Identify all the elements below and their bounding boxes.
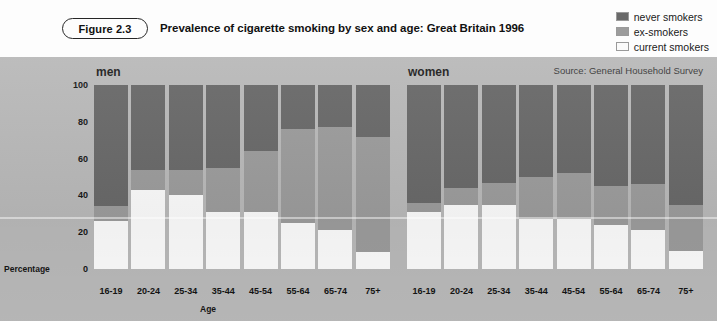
figure-number-badge: Figure 2.3 <box>62 18 148 39</box>
figure-page: Figure 2.3 Prevalence of cigarette smoki… <box>0 0 717 321</box>
y-axis: 020406080100 <box>54 57 88 321</box>
legend-item: never smokers <box>616 10 709 23</box>
bar-segment <box>444 205 478 269</box>
x-axis-tick: 35-44 <box>519 286 553 296</box>
stacked-bar <box>318 85 352 269</box>
chart-panel: men women Source: General Household Surv… <box>0 57 717 321</box>
x-axis-tick: 25-34 <box>169 286 203 296</box>
bar-segment <box>131 170 165 190</box>
stacked-bar <box>356 85 390 269</box>
stacked-bar <box>131 85 165 269</box>
bar-segment <box>244 151 278 212</box>
bar-segment <box>669 251 703 269</box>
bar-segment <box>356 252 390 269</box>
source-note: Source: General Household Survey <box>554 65 703 76</box>
bar-segment <box>318 127 352 230</box>
y-axis-tick: 0 <box>54 264 88 274</box>
bar-segment <box>519 177 553 219</box>
stacked-bar <box>669 85 703 269</box>
bar-segment <box>131 85 165 170</box>
stacked-bar <box>244 85 278 269</box>
y-axis-label: Percentage <box>4 264 50 274</box>
bar-segment <box>169 85 203 170</box>
bar-segment <box>318 85 352 127</box>
bar-segment <box>407 85 441 203</box>
bar-segment <box>356 85 390 137</box>
legend-label: ex-smokers <box>634 26 688 38</box>
stacked-bar <box>482 85 516 269</box>
stacked-bar <box>444 85 478 269</box>
stacked-bar <box>169 85 203 269</box>
legend-swatch-icon <box>616 12 629 21</box>
figure-title: Prevalence of cigarette smoking by sex a… <box>160 22 524 34</box>
bar-segment <box>169 195 203 269</box>
y-axis-tick: 20 <box>54 227 88 237</box>
bar-segment <box>94 85 128 206</box>
bar-segment <box>519 85 553 177</box>
x-axis-tick: 35-44 <box>206 286 240 296</box>
bar-segment <box>519 219 553 269</box>
group-title-women: women <box>408 65 449 79</box>
group-title-men: men <box>96 65 121 79</box>
legend-swatch-icon <box>616 27 629 36</box>
stacked-bar <box>206 85 240 269</box>
legend-swatch-icon <box>616 42 629 51</box>
bar-segment <box>482 183 516 205</box>
bar-segment <box>444 188 478 205</box>
stacked-bar <box>94 85 128 269</box>
bar-segment <box>631 85 665 184</box>
legend-item: ex-smokers <box>616 25 709 38</box>
stacked-bar <box>281 85 315 269</box>
bar-segment <box>407 203 441 212</box>
y-axis-tick: 40 <box>54 190 88 200</box>
bar-segment <box>594 225 628 269</box>
stacked-bar <box>519 85 553 269</box>
bar-segment <box>94 221 128 269</box>
y-axis-tick: 60 <box>54 154 88 164</box>
x-axis-tick: 25-34 <box>482 286 516 296</box>
bar-segment <box>281 129 315 223</box>
x-axis-tick: 45-54 <box>557 286 591 296</box>
x-axis-tick: 65-74 <box>631 286 665 296</box>
stacked-bar <box>594 85 628 269</box>
bar-segment <box>94 206 128 221</box>
bar-segment <box>557 85 591 173</box>
x-axis-tick: 16-19 <box>407 286 441 296</box>
bar-segment <box>444 85 478 188</box>
legend-label: current smokers <box>634 41 709 53</box>
x-axis-tick: 20-24 <box>444 286 478 296</box>
bar-segment <box>669 85 703 205</box>
bar-segment <box>244 85 278 151</box>
bar-segment <box>407 212 441 269</box>
bar-segment <box>482 205 516 269</box>
bar-segment <box>594 85 628 186</box>
bar-segment <box>281 223 315 269</box>
legend-item: current smokers <box>616 40 709 53</box>
bar-segment <box>557 173 591 219</box>
bar-segment <box>244 212 278 269</box>
y-axis-tick: 100 <box>54 80 88 90</box>
bar-segment <box>206 85 240 168</box>
y-axis-tick: 80 <box>54 117 88 127</box>
bar-segment <box>206 212 240 269</box>
x-axis-tick: 75+ <box>669 286 703 296</box>
chart-legend: never smokersex-smokerscurrent smokers <box>616 10 709 53</box>
bar-segment <box>356 137 390 253</box>
bar-segment <box>318 230 352 269</box>
bar-segment <box>557 219 591 269</box>
stacked-bar <box>557 85 591 269</box>
x-axis-tick: 45-54 <box>244 286 278 296</box>
stacked-bar <box>631 85 665 269</box>
bar-segment <box>281 85 315 129</box>
bar-segment <box>631 184 665 230</box>
x-axis-tick: 65-74 <box>318 286 352 296</box>
x-axis-tick: 16-19 <box>94 286 128 296</box>
x-axis-tick: 20-24 <box>131 286 165 296</box>
bar-segment <box>669 205 703 251</box>
bar-segment <box>482 85 516 183</box>
stacked-bar <box>407 85 441 269</box>
x-axis-tick: 55-64 <box>594 286 628 296</box>
bar-segment <box>631 230 665 269</box>
x-axis-tick: 75+ <box>356 286 390 296</box>
figure-header: Figure 2.3 Prevalence of cigarette smoki… <box>0 0 717 57</box>
